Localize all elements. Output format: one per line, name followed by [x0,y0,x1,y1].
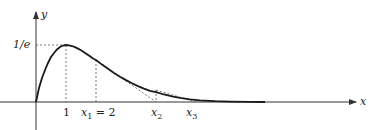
x-axis-label: x [360,95,367,108]
x3-label: x3 [186,106,197,121]
newton-method-diagram: x y 1/e 1 x1 = 2 x2 x3 [0,0,390,130]
x1-label: x1 = 2 [81,106,116,121]
y-axis-label: y [40,8,48,21]
x2-label: x2 [151,106,162,121]
y-max-label: 1/e [13,38,31,51]
x-peak-label: 1 [63,106,70,119]
function-curve [36,45,265,102]
